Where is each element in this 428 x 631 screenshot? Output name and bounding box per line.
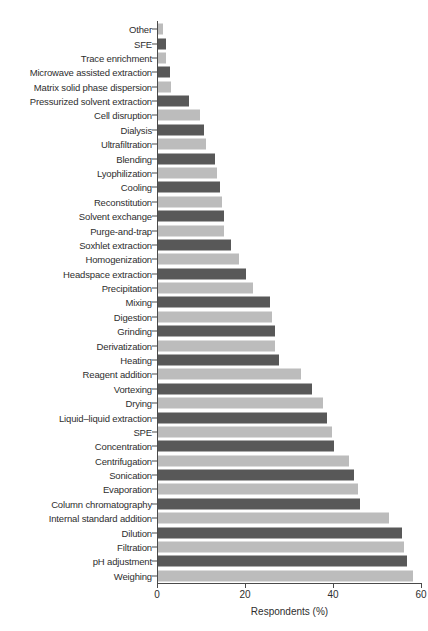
bar-row: Blending: [0, 151, 428, 165]
y-axis-tick: [152, 575, 157, 576]
bar-category-label: Drying: [125, 398, 152, 409]
bar-row: Centrifugation: [0, 454, 428, 468]
y-axis-tick: [152, 374, 157, 375]
bar-row: Cell disruption: [0, 108, 428, 122]
bar-category-label: Concentration: [95, 441, 152, 452]
bar-row: Cooling: [0, 180, 428, 194]
y-axis-tick: [152, 144, 157, 145]
bar-category-label: Matrix solid phase dispersion: [34, 81, 152, 92]
bar-row: Dilution: [0, 525, 428, 539]
y-axis-tick: [152, 431, 157, 432]
bar-row: Ultrafiltration: [0, 137, 428, 151]
y-axis-tick: [152, 273, 157, 274]
bar-row: Pressurized solvent extraction: [0, 94, 428, 108]
bar: [158, 153, 215, 164]
x-axis-tick: [333, 583, 334, 588]
bar-row: Evaporation: [0, 482, 428, 496]
bar: [158, 441, 334, 452]
y-axis-tick: [152, 29, 157, 30]
bar-row: Homogenization: [0, 252, 428, 266]
bar-category-label: Internal standard addition: [49, 513, 152, 524]
bar: [158, 139, 206, 150]
bar-row: Internal standard addition: [0, 511, 428, 525]
bar: [158, 398, 323, 409]
bar-category-label: Purge-and-trap: [90, 225, 152, 236]
bar: [158, 383, 312, 394]
bar: [158, 498, 360, 509]
bar: [158, 484, 358, 495]
y-axis-tick: [152, 561, 157, 562]
bar-category-label: Evaporation: [103, 484, 152, 495]
bar: [158, 513, 389, 524]
bar: [158, 426, 332, 437]
y-axis-tick: [152, 244, 157, 245]
bar-row: Other: [0, 22, 428, 36]
bar-category-label: Soxhlet extraction: [79, 239, 152, 250]
y-axis-tick: [152, 259, 157, 260]
y-axis-tick: [152, 475, 157, 476]
bar: [158, 326, 275, 337]
bar-category-label: Sonication: [109, 470, 152, 481]
y-axis-tick: [152, 86, 157, 87]
bar: [158, 268, 246, 279]
y-axis-tick: [152, 331, 157, 332]
bar: [158, 355, 279, 366]
y-axis-tick: [152, 417, 157, 418]
bar-category-label: Homogenization: [85, 254, 152, 265]
bar: [158, 297, 270, 308]
bar-category-label: SFE: [134, 38, 152, 49]
bar: [158, 311, 272, 322]
bar-category-label: SPE: [133, 426, 152, 437]
bar-category-label: Cooling: [121, 182, 152, 193]
x-axis-tick-label: 0: [154, 589, 160, 601]
bar: [158, 38, 166, 49]
bar-chart: OtherSFETrace enrichmentMicrowave assist…: [0, 0, 428, 631]
bar-row: Purge-and-trap: [0, 223, 428, 237]
bar: [158, 254, 239, 265]
bar-row: Digestion: [0, 310, 428, 324]
x-axis-title: Respondents (%): [157, 606, 422, 618]
x-axis-ticks: 0204060: [0, 583, 428, 603]
x-axis-tick: [421, 583, 422, 588]
y-axis-tick: [152, 216, 157, 217]
bar: [158, 52, 166, 63]
y-axis-tick: [152, 115, 157, 116]
bar: [158, 412, 327, 423]
bar: [158, 168, 217, 179]
bar-category-label: Filtration: [117, 542, 152, 553]
bar-category-label: Weighing: [114, 570, 152, 581]
bar: [158, 542, 404, 553]
bar-row: Matrix solid phase dispersion: [0, 80, 428, 94]
bar: [158, 110, 200, 121]
x-axis-tick-label: 40: [327, 589, 338, 601]
bar-category-label: Column chromatography: [51, 498, 152, 509]
bar-category-label: Other: [129, 24, 152, 35]
bar: [158, 225, 224, 236]
bar-row: Column chromatography: [0, 497, 428, 511]
y-axis-tick: [152, 173, 157, 174]
bar: [158, 24, 163, 35]
bar-category-label: Mixing: [125, 297, 152, 308]
bar-row: Heating: [0, 353, 428, 367]
bar-row: Vortexing: [0, 382, 428, 396]
y-axis-tick: [152, 518, 157, 519]
bar: [158, 340, 275, 351]
x-axis-tick: [157, 583, 158, 588]
y-axis-tick: [152, 158, 157, 159]
y-axis-tick: [152, 460, 157, 461]
bar: [158, 527, 402, 538]
bar-category-label: Pressurized solvent extraction: [30, 96, 152, 107]
bar-category-label: Digestion: [114, 311, 152, 322]
bar-row: Reconstitution: [0, 195, 428, 209]
bar-category-label: Solvent exchange: [79, 211, 152, 222]
bar-row: SPE: [0, 425, 428, 439]
bar: [158, 369, 301, 380]
bar: [158, 196, 222, 207]
y-axis-tick: [152, 288, 157, 289]
bar-category-label: Reagent addition: [83, 369, 152, 380]
bar-category-label: Cell disruption: [94, 110, 152, 121]
bar-row: Soxhlet extraction: [0, 238, 428, 252]
bar-row: Reagent addition: [0, 367, 428, 381]
bar-rows: OtherSFETrace enrichmentMicrowave assist…: [0, 22, 428, 583]
bar-category-label: Heating: [120, 355, 152, 366]
